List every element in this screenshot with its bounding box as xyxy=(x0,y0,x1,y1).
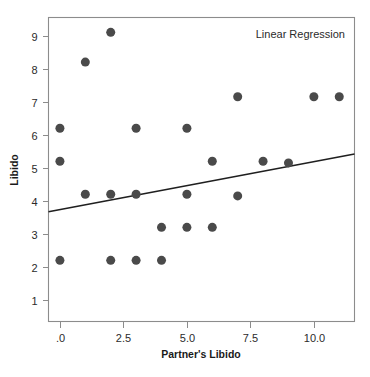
data-point xyxy=(106,28,115,37)
data-point xyxy=(208,223,217,232)
data-point xyxy=(182,124,191,133)
y-tick-label: 9 xyxy=(31,31,37,43)
linear-regression-scatter-chart: .02.55.07.510.0 123456789 Linear Regress… xyxy=(0,0,370,377)
data-point xyxy=(233,92,242,101)
data-point xyxy=(335,92,344,101)
data-point xyxy=(81,190,90,199)
data-point xyxy=(157,256,166,265)
y-tick-label: 1 xyxy=(31,295,37,307)
scatter-plot-figure: .02.55.07.510.0 123456789 Linear Regress… xyxy=(0,0,370,377)
data-point xyxy=(284,158,293,167)
data-point xyxy=(259,157,268,166)
data-point xyxy=(55,157,64,166)
data-point xyxy=(132,124,141,133)
x-axis-title: Partner's Libido xyxy=(161,348,241,360)
data-point xyxy=(132,256,141,265)
data-point xyxy=(182,223,191,232)
y-tick-label: 6 xyxy=(31,130,37,142)
data-point xyxy=(106,256,115,265)
y-tick-label: 5 xyxy=(31,163,37,175)
y-tick-label: 7 xyxy=(31,97,37,109)
y-tick-label: 3 xyxy=(31,229,37,241)
y-axis-title: Libido xyxy=(8,154,20,186)
data-point xyxy=(208,157,217,166)
linear-regression-annotation: Linear Regression xyxy=(256,28,345,40)
data-point xyxy=(55,256,64,265)
data-point xyxy=(132,190,141,199)
data-point xyxy=(233,191,242,200)
y-axis-tick-labels: 123456789 xyxy=(31,31,37,307)
x-tick-label: 2.5 xyxy=(116,332,131,344)
y-tick-label: 4 xyxy=(31,196,37,208)
data-point xyxy=(106,190,115,199)
y-tick-label: 8 xyxy=(31,64,37,76)
data-point xyxy=(157,223,166,232)
x-tick-label: .0 xyxy=(56,332,65,344)
data-point xyxy=(55,124,64,133)
x-tick-label: 7.5 xyxy=(243,332,258,344)
data-point xyxy=(309,92,318,101)
data-point xyxy=(182,190,191,199)
y-tick-label: 2 xyxy=(31,262,37,274)
plot-frame xyxy=(49,18,355,322)
x-tick-label: 5.0 xyxy=(180,332,195,344)
data-point xyxy=(81,58,90,67)
x-tick-label: 10.0 xyxy=(304,332,325,344)
